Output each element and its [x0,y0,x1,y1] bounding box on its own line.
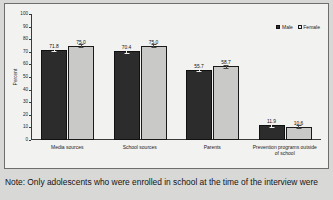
bar-female: 58.7 [213,66,239,140]
bar-group: 70.475.0 [104,14,177,140]
bar-group: 11.910.6 [249,14,322,140]
y-tick-mark-0 [29,140,32,141]
y-tick-label-80: 80 [11,37,28,42]
plot-area: Percent 0102030405060708090100 71.875.07… [31,14,321,140]
chart-page: Male Female Percent 01020304050607080901… [0,0,333,200]
bar-male: 55.7 [186,70,212,140]
x-axis-label: Media sources [31,144,104,150]
bar-group: 71.875.0 [31,14,104,140]
error-bar [124,50,129,54]
error-bar [269,124,274,128]
y-tick-label-40: 40 [11,87,28,92]
error-bar [79,44,84,48]
bar-male: 70.4 [114,51,140,140]
bar-group: 55.758.7 [176,14,249,140]
chart-frame: Male Female Percent 01020304050607080901… [4,3,329,169]
y-tick-label-20: 20 [11,112,28,117]
chart-footnote: Note: Only adolescents who were enrolled… [5,177,330,187]
bar-male: 71.8 [41,50,67,140]
y-tick-label-90: 90 [11,24,28,29]
x-axis-label: Parents [176,144,249,150]
y-tick-label-60: 60 [11,62,28,67]
bar-female: 75.0 [68,46,94,141]
x-axis-label: Prevention programs outside of school [249,144,322,156]
error-bar [52,48,57,52]
bar-female: 75.0 [141,46,167,141]
error-bar [151,44,156,48]
error-bar [296,125,301,129]
y-tick-label-0: 0 [11,138,28,143]
y-tick-label-50: 50 [11,75,28,80]
x-axis-label: School sources [104,144,177,150]
bar-female: 10.6 [286,127,312,140]
y-tick-label-10: 10 [11,125,28,130]
y-tick-label-70: 70 [11,49,28,54]
bar-male: 11.9 [259,125,285,140]
error-bar [197,68,202,72]
error-bar [224,65,229,69]
y-tick-label-30: 30 [11,100,28,105]
y-tick-label-100: 100 [11,12,28,17]
